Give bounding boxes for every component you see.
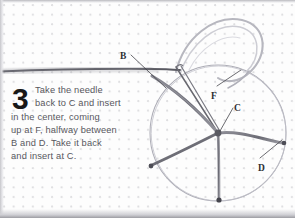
stitch-spokes <box>149 76 287 203</box>
leader-line-c <box>220 108 233 131</box>
diagram-label-b: B <box>120 51 127 61</box>
instruction-line: back to C and insert <box>11 97 161 110</box>
leader-line-f <box>217 70 241 86</box>
instruction-line: B and D. Take it back <box>11 137 161 150</box>
diagram-label-c: C <box>234 103 241 113</box>
instruction-line: in the center, coming <box>11 111 161 124</box>
paper-edge-top <box>0 0 295 3</box>
leader-line-d <box>260 140 282 158</box>
diagram-label-f: F <box>211 91 217 101</box>
instruction-line: and insert at C. <box>11 150 161 163</box>
step-text-block: 3 Take the needleback to C and insertin … <box>11 84 161 164</box>
diagram-label-d: D <box>258 163 265 173</box>
instruction-line: up at F, halfway between <box>11 124 161 137</box>
instruction-figure: 3 Take the needleback to C and insertin … <box>0 0 295 218</box>
paper-edge-left <box>0 0 4 218</box>
instruction-line: Take the needle <box>11 84 161 97</box>
needle-horizontal-shaft <box>0 68 180 73</box>
step-instruction-text: Take the needleback to C and insertin th… <box>11 84 161 164</box>
paper-edge-bottom <box>0 209 295 218</box>
